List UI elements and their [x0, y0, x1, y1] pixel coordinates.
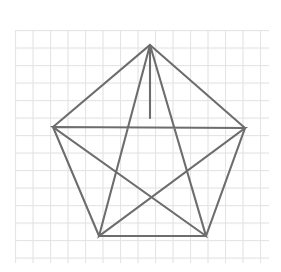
graph-paper-grid	[15, 30, 269, 263]
pentagon-pentagram-drawing	[0, 0, 281, 272]
figure-canvas	[0, 0, 281, 272]
